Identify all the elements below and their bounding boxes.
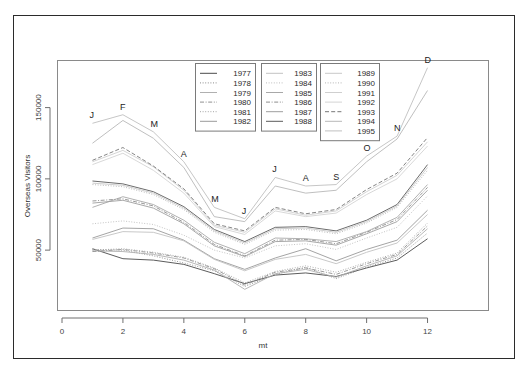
point-label-F-2: F — [120, 102, 126, 112]
point-label-D-12: D — [425, 55, 432, 65]
legend-label-1985[interactable]: 1985 — [294, 89, 312, 98]
legend-box-3[interactable]: 1989199019911992199319941995 — [321, 64, 380, 141]
legend-label-1983[interactable]: 1983 — [294, 69, 312, 78]
series-line-1990 — [92, 170, 427, 244]
series-line-1985 — [92, 185, 427, 254]
point-label-A-8: A — [303, 173, 309, 183]
x-tick-label-4: 4 — [182, 327, 187, 336]
legend-label-1979[interactable]: 1979 — [233, 89, 251, 98]
point-label-N-11: N — [394, 123, 401, 133]
point-label-J-7: J — [272, 164, 277, 174]
legend-box-2[interactable]: 198319841985198619871988 — [262, 64, 317, 132]
point-label-M-5: M — [211, 194, 219, 204]
x-tick-label-10: 10 — [362, 327, 371, 336]
series-line-1993 — [92, 138, 427, 231]
legend-label-1982[interactable]: 1982 — [233, 117, 251, 126]
point-label-S-9: S — [333, 172, 339, 182]
legend[interactable]: 1977197819791980198119821983198419851986… — [196, 64, 380, 141]
seasonal-line-chart: JFMAMJJASOND 02468101250000100000150000 … — [0, 0, 529, 375]
legend-label-1993[interactable]: 1993 — [357, 108, 375, 117]
chart-canvas: JFMAMJJASOND 02468101250000100000150000 … — [0, 0, 529, 375]
legend-label-1992[interactable]: 1992 — [357, 98, 375, 107]
point-label-J-1: J — [90, 110, 95, 120]
legend-label-1978[interactable]: 1978 — [233, 79, 251, 88]
legend-label-1987[interactable]: 1987 — [294, 108, 312, 117]
legend-label-1981[interactable]: 1981 — [233, 108, 251, 117]
x-tick-label-2: 2 — [121, 327, 126, 336]
series-line-1991 — [92, 142, 427, 233]
point-label-O-10: O — [364, 143, 371, 153]
y-tick-label-100000: 100000 — [34, 165, 43, 192]
legend-label-1988[interactable]: 1988 — [294, 117, 312, 126]
point-label-M-3: M — [150, 119, 158, 129]
legend-label-1977[interactable]: 1977 — [233, 69, 251, 78]
legend-label-1989[interactable]: 1989 — [357, 69, 375, 78]
x-tick-label-8: 8 — [303, 327, 308, 336]
x-tick-label-12: 12 — [423, 327, 432, 336]
y-axis-title: Overseas Visitors — [23, 155, 32, 218]
legend-label-1990[interactable]: 1990 — [357, 79, 375, 88]
y-tick-label-150000: 150000 — [34, 94, 43, 121]
x-tick-label-6: 6 — [243, 327, 248, 336]
legend-label-1984[interactable]: 1984 — [294, 79, 312, 88]
legend-label-1994[interactable]: 1994 — [357, 117, 375, 126]
legend-label-1980[interactable]: 1980 — [233, 98, 251, 107]
legend-label-1986[interactable]: 1986 — [294, 98, 312, 107]
y-tick-label-50000: 50000 — [34, 238, 43, 261]
legend-label-1995[interactable]: 1995 — [357, 127, 375, 136]
point-label-A-4: A — [181, 149, 187, 159]
point-label-J-6: J — [242, 206, 247, 216]
month-label-layer: JFMAMJJASOND — [90, 55, 432, 216]
legend-box-1[interactable]: 197719781979198019811982 — [196, 64, 256, 132]
x-axis-title: mt — [259, 341, 269, 350]
legend-label-1991[interactable]: 1991 — [357, 89, 375, 98]
x-tick-label-0: 0 — [60, 327, 65, 336]
